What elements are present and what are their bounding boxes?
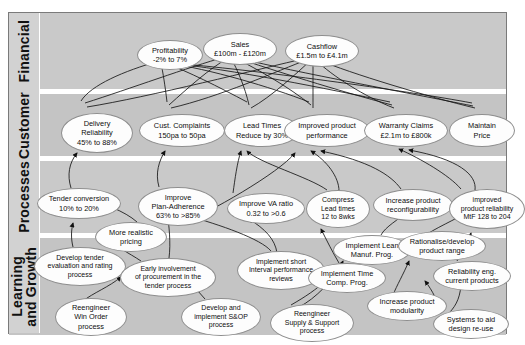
node-delivery-reliability[interactable]: Delivery Reliability 45% to 88% (61, 113, 133, 153)
node-increase-product-reconfigurability[interactable]: Increase product reconfigurability (373, 189, 453, 221)
node-rationalise-product-range[interactable]: Rationalise/develop product range (398, 231, 486, 261)
node-improve-plan-adherence[interactable]: Improve Plan-Adherence 63% to >85% (138, 187, 218, 226)
node-implement-time-comp[interactable]: Implement Time Comp. Prog. (308, 263, 386, 293)
node-cashflow[interactable]: Cashflow £1.5m to £4.1m (285, 35, 359, 67)
node-warranty-claims[interactable]: Warranty Claims £2.1m to £800k (364, 114, 448, 147)
node-reengineer-supply-support[interactable]: Reengineer Supply & Support process (270, 304, 354, 342)
node-improve-va-ratio[interactable]: Improve VA ratio 0.32 to >0.6 (227, 193, 305, 224)
node-maintain-price[interactable]: Maintain Price (449, 114, 515, 147)
node-improved-product-reliability[interactable]: improved product reliability MtF 128 to … (449, 189, 525, 229)
node-compress-lead-times[interactable]: Compress Lead times 12 to 8wks (306, 190, 370, 228)
node-early-procurement-involvement[interactable]: Early involvement of procurement in the … (120, 258, 216, 297)
node-develop-implement-sandop[interactable]: Develop and implement S&OP process (181, 298, 261, 336)
node-tender-conversion[interactable]: Tender conversion 10% to 20% (37, 188, 121, 219)
node-systems-to-aid-design-reuse[interactable]: Systems to aid design re-use (433, 309, 509, 339)
node-sales[interactable]: Sales £100m - £120m (203, 33, 277, 65)
node-reengineer-win-order[interactable]: Reengineer Win Order process (55, 298, 127, 336)
node-develop-tender-evaluation[interactable]: Develop tender evaluation and rating pro… (34, 247, 126, 286)
node-cust-complaints[interactable]: Cust. Complaints 150pa to 50pa (139, 114, 225, 147)
node-increase-product-modularity[interactable]: Increase product modularity (367, 291, 447, 321)
diagram-frame: Financial Customer Processes Learning an… (8, 12, 507, 334)
node-profitability[interactable]: Profitability -2% to 7% (137, 40, 203, 70)
node-improved-product-performance[interactable]: Improved product performance (284, 114, 370, 147)
node-more-realistic-pricing[interactable]: More realistic pricing (95, 222, 167, 252)
node-reliability-eng-current-products[interactable]: Reliability eng. current products (433, 261, 511, 291)
